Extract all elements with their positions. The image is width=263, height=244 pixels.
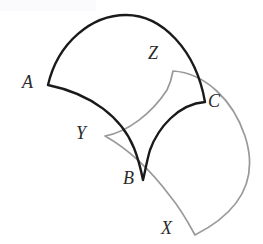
geometry-figure: A Z C Y B X <box>0 0 263 244</box>
figure-canvas <box>0 0 263 244</box>
vertex-label-z: Z <box>148 44 158 62</box>
gray-sector-XYZ-path <box>105 71 250 235</box>
vertex-label-c: C <box>208 92 220 110</box>
vertex-label-b: B <box>123 169 134 187</box>
vertex-label-x: X <box>161 219 172 237</box>
vertex-label-y: Y <box>76 124 86 142</box>
vertex-label-a: A <box>22 73 33 91</box>
black-sector-ABC-path <box>48 15 205 180</box>
